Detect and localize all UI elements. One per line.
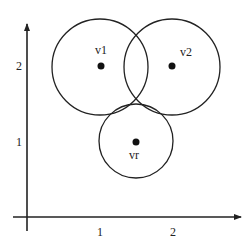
- point-v2: [169, 63, 176, 70]
- y-tick-labels: 2 1: [16, 59, 22, 149]
- y-tick-label-1: 1: [16, 135, 22, 149]
- node-vr: vr: [99, 104, 173, 178]
- node-v1: v1: [52, 19, 148, 115]
- point-vr: [133, 139, 140, 146]
- y-tick-label-2: 2: [16, 59, 22, 73]
- label-vr: vr: [129, 148, 139, 162]
- x-tick-labels: 1 2: [97, 225, 176, 239]
- x-tick-label-1: 1: [97, 225, 103, 239]
- label-v2: v2: [180, 45, 192, 59]
- axes: [13, 24, 241, 231]
- diagram-canvas: 1 2 2 1 v1 v2 vr: [0, 0, 252, 244]
- label-v1: v1: [95, 43, 107, 57]
- point-v1: [98, 63, 105, 70]
- x-tick-label-2: 2: [170, 225, 176, 239]
- node-v2: v2: [124, 19, 220, 115]
